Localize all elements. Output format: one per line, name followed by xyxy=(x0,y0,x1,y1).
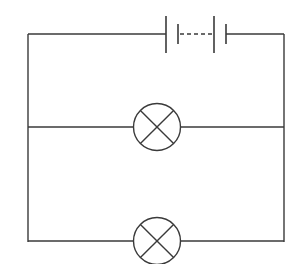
lamp-1-icon xyxy=(134,104,181,151)
circuit-canvas xyxy=(0,0,298,264)
lamp-2-icon xyxy=(134,218,181,264)
battery-icon xyxy=(166,16,226,53)
